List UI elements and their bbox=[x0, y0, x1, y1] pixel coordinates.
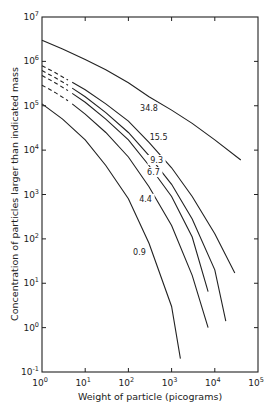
y-tick-label: 101 bbox=[23, 276, 39, 288]
x-tick-label: 100 bbox=[32, 376, 48, 388]
curve-label-6.7: 6.7 bbox=[147, 168, 160, 177]
y-tick-label: 107 bbox=[23, 10, 39, 22]
y-axis-ticks: 10-1100101102103104105106107 bbox=[21, 10, 258, 377]
y-tick-label: 10-1 bbox=[21, 365, 39, 377]
curve-4.4-extrapolated bbox=[42, 85, 68, 101]
x-tick-label: 103 bbox=[162, 376, 178, 388]
curve-34.8 bbox=[42, 40, 241, 160]
x-tick-label: 105 bbox=[248, 376, 264, 388]
particle-mass-distribution-chart: 100101102103104105 10-110010110210310410… bbox=[0, 0, 272, 410]
curve-4.4 bbox=[72, 104, 208, 328]
y-tick-label: 106 bbox=[23, 54, 39, 66]
curve-label-0.9: 0.9 bbox=[133, 248, 146, 257]
x-tick-label: 101 bbox=[75, 376, 91, 388]
y-tick-label: 103 bbox=[23, 188, 39, 200]
y-tick-label: 100 bbox=[23, 321, 39, 333]
y-tick-label: 105 bbox=[23, 99, 39, 111]
curve-labels: 34.815.59.36.74.40.9 bbox=[130, 103, 167, 257]
curve-6.7 bbox=[72, 93, 208, 291]
curve-label-15.5: 15.5 bbox=[150, 133, 168, 142]
curve-label-34.8: 34.8 bbox=[140, 104, 158, 113]
x-axis-title: Weight of particle (picograms) bbox=[78, 391, 222, 402]
curve-0.9 bbox=[42, 104, 180, 359]
x-tick-label: 104 bbox=[205, 376, 221, 388]
curve-label-4.4: 4.4 bbox=[139, 195, 152, 204]
curve-label-9.3: 9.3 bbox=[150, 156, 163, 165]
x-tick-label: 102 bbox=[119, 376, 135, 388]
y-axis-title: Concentration of particles larger than i… bbox=[9, 67, 20, 321]
y-tick-label: 102 bbox=[23, 232, 39, 244]
y-tick-label: 104 bbox=[23, 143, 39, 155]
